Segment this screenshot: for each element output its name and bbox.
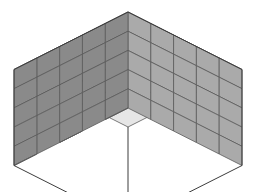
isometric-cube-drawing — [0, 0, 260, 192]
right-wall-group — [128, 12, 242, 166]
cube-stack-figure — [0, 0, 260, 192]
left-wall-group — [14, 12, 128, 166]
